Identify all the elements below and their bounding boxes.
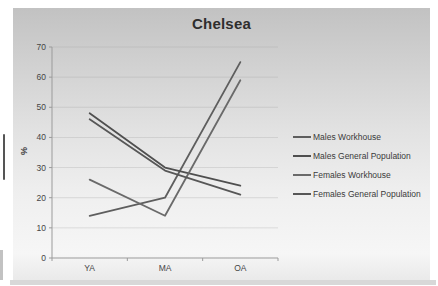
x-category-label: OA [234,263,247,273]
legend-line-marker-icon [293,193,311,195]
legend-item: Males General Population [293,146,433,165]
legend-line-marker-icon [293,174,311,176]
y-tick-label: 50 [37,102,47,112]
legend-line-marker-icon [293,155,311,157]
scan-artifact-bottom-band [10,280,436,285]
legend-item-label: Males General Population [313,151,411,161]
scan-artifact-left-smudge [0,250,3,280]
data-line [90,113,241,185]
legend-item: Females General Population [293,184,433,203]
y-tick-label: 30 [37,163,47,173]
scan-artifact-left-edge [3,134,5,180]
y-tick-label: 20 [37,193,47,203]
y-tick-label: 0 [41,253,46,263]
legend-item-label: Females Workhouse [313,170,391,180]
x-category-label: YA [84,263,95,273]
scanned-chart-page: Chelsea % 010203040506070YAMAOA Males Wo… [0,0,438,286]
legend-item: Females Workhouse [293,165,433,184]
chart-legend: Males Workhouse Males General Population… [293,127,433,203]
y-tick-label: 10 [37,223,47,233]
legend-item: Males Workhouse [293,127,433,146]
legend-item-label: Females General Population [313,189,421,199]
legend-line-marker-icon [293,136,311,138]
data-line [90,80,241,216]
legend-item-label: Males Workhouse [313,132,381,142]
data-line [90,62,241,216]
y-tick-label: 70 [37,42,47,52]
y-tick-label: 60 [37,72,47,82]
y-tick-label: 40 [37,132,47,142]
x-category-label: MA [159,263,172,273]
